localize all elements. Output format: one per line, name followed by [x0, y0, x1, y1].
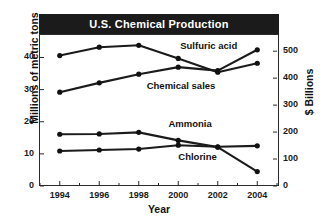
x-axis-tick-2004: 2004 [237, 190, 277, 200]
data-point [136, 43, 141, 48]
data-point [176, 143, 181, 148]
data-point [57, 148, 62, 153]
y-axis-left-title: Millions of metric tons [28, 0, 40, 143]
data-point [136, 130, 141, 135]
data-point [57, 132, 62, 137]
data-point [97, 131, 102, 136]
data-point [57, 90, 62, 95]
y-axis-left-tick-10: 10 [8, 148, 34, 158]
series-label-sulfuric-acid: Sulfuric acid [180, 40, 237, 51]
data-point [255, 143, 260, 148]
series-label-chlorine: Chlorine [178, 151, 217, 162]
x-axis-tick-1994: 1994 [40, 190, 80, 200]
data-point [176, 65, 181, 70]
y-axis-right-tick-0: 0 [283, 180, 309, 190]
data-point [57, 53, 62, 58]
x-axis-tick-1998: 1998 [119, 190, 159, 200]
y-axis-right-tick-100: 100 [283, 153, 309, 163]
data-point [97, 45, 102, 50]
data-point [176, 138, 181, 143]
series-label-ammonia: Ammonia [168, 118, 211, 129]
x-axis-title: Year [39, 203, 279, 215]
x-axis-tick-2000: 2000 [158, 190, 198, 200]
series-ammonia [57, 130, 260, 174]
data-point [255, 61, 260, 66]
data-point [255, 169, 260, 174]
series-chlorine [57, 143, 260, 154]
data-point [176, 56, 181, 61]
y-axis-right-title: $ Billions [303, 37, 315, 147]
x-axis-tick-1996: 1996 [79, 190, 119, 200]
data-point [136, 72, 141, 77]
series-label-chemical-sales: Chemical sales [147, 80, 216, 91]
plot-svg [0, 0, 325, 222]
data-point [97, 80, 102, 85]
y-axis-left-tick-0: 0 [8, 180, 34, 190]
data-point [215, 68, 220, 73]
x-axis-tick-2002: 2002 [198, 190, 238, 200]
data-point [215, 144, 220, 149]
chart-figure: U.S. Chemical Production 010203040 01002… [0, 0, 325, 222]
data-point [97, 147, 102, 152]
data-series-layer [57, 43, 260, 174]
data-point [255, 47, 260, 52]
data-point [136, 146, 141, 151]
